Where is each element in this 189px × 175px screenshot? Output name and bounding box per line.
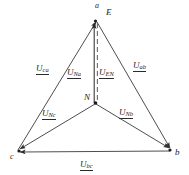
node-dot-b: [168, 148, 171, 151]
phasor-line-uab: [97, 22, 170, 148]
vector-label-uen: UEN: [99, 68, 114, 79]
vector-label-ubc: Ubc: [80, 160, 93, 171]
vector-label-uca: Uca: [36, 64, 49, 75]
vector-label-uab: Uab: [133, 61, 146, 72]
node-label-c: c: [10, 153, 14, 161]
node-label-b: b: [175, 148, 180, 157]
vector-subscript-unb: Nb: [126, 110, 134, 117]
node-label-n: N: [84, 93, 90, 102]
phasor-diagram: a E N c b Uca Uab UNa UEN UNc UNb Ubc: [0, 0, 189, 175]
phasor-diagram-canvas: [0, 0, 189, 175]
vector-subscript-ubc: bc: [87, 162, 93, 169]
node-label-e: E: [106, 8, 112, 17]
node-dot-a: [94, 19, 97, 22]
node-dot-n: [94, 101, 98, 105]
phasor-line-unc: [20, 104, 95, 149]
phasor-line-uca: [18, 22, 96, 150]
vector-label-una: UNa: [67, 68, 81, 79]
node-dot-c: [17, 149, 20, 152]
vector-subscript-una: Na: [74, 70, 82, 77]
vector-label-unc: UNc: [42, 109, 56, 120]
vector-subscript-uca: ca: [43, 66, 49, 73]
vector-subscript-unc: Nc: [49, 111, 56, 118]
vector-label-unb: UNb: [119, 108, 133, 119]
phasor-line-ubc: [20, 151, 170, 152]
vector-subscript-uen: EN: [106, 70, 114, 77]
node-label-a: a: [95, 2, 99, 10]
vector-subscript-uab: ab: [140, 63, 147, 70]
